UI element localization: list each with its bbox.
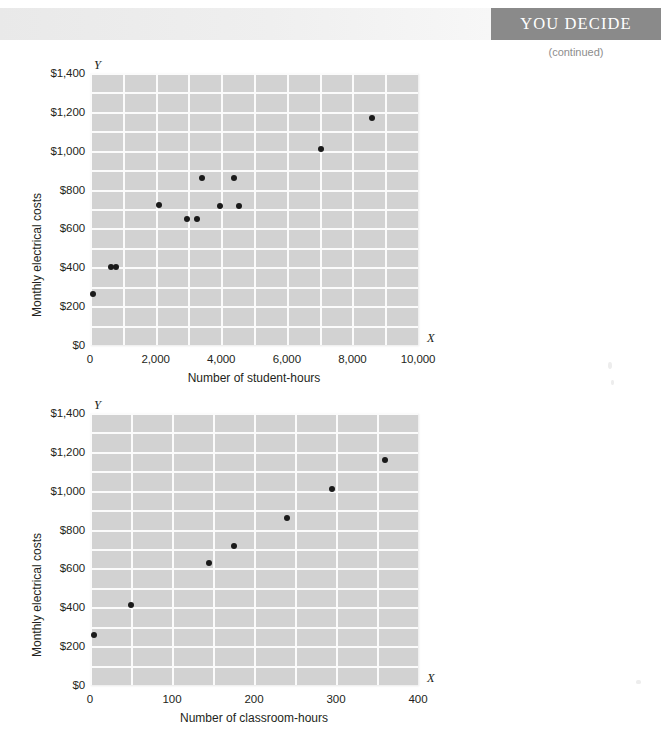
page-header-band: YOU DECIDE xyxy=(0,8,661,40)
gridline-horizontal xyxy=(90,491,418,493)
y-tick-label: $800 xyxy=(60,184,85,196)
data-point xyxy=(382,457,388,463)
data-point xyxy=(329,486,335,492)
scan-speckle xyxy=(611,380,614,385)
y-tick-label: $200 xyxy=(60,300,85,312)
scan-speckle xyxy=(608,362,612,369)
x-tick-label: 2,000 xyxy=(141,353,169,365)
scan-speckle xyxy=(636,680,641,684)
data-point xyxy=(284,515,290,521)
header-left-gradient-bar xyxy=(0,8,491,40)
data-point xyxy=(206,560,212,566)
data-point xyxy=(217,203,223,209)
y-axis-letter: Y xyxy=(94,58,101,73)
x-axis-title: Number of classroom-hours xyxy=(90,711,418,725)
y-axis-title: Monthly electrical costs xyxy=(30,193,44,317)
y-tick-label: $1,000 xyxy=(50,145,85,157)
continued-label: (continued) xyxy=(491,46,661,58)
gridline-horizontal xyxy=(90,112,418,114)
y-tick-label: $600 xyxy=(60,222,85,234)
gridline-horizontal xyxy=(90,248,418,250)
y-axis-letter: Y xyxy=(94,398,101,413)
plot-area xyxy=(90,413,418,685)
gridline-horizontal xyxy=(90,413,418,415)
x-tick-label: 400 xyxy=(409,693,428,705)
page-title: YOU DECIDE xyxy=(491,8,661,40)
gridline-horizontal xyxy=(90,549,418,551)
data-point xyxy=(369,115,375,121)
x-tick-label: 0 xyxy=(87,353,93,365)
data-point xyxy=(318,146,324,152)
gridline-horizontal xyxy=(90,151,418,153)
chart-student-hours: $0 $200 $400 $600 $800 $1,000 xyxy=(0,60,470,390)
data-point xyxy=(199,175,205,181)
plot-area xyxy=(90,73,418,345)
y-tick-label: $1,200 xyxy=(50,106,85,118)
chart-classroom-hours: $0 $200 $400 $600 $800 $1,000 xyxy=(0,400,470,730)
x-axis-letter: X xyxy=(427,671,435,686)
gridline-horizontal xyxy=(90,607,418,609)
x-axis-letter: X xyxy=(427,331,435,346)
gridline-horizontal xyxy=(90,131,418,133)
x-tick-label: 300 xyxy=(327,693,346,705)
gridline-horizontal xyxy=(90,209,418,211)
gridline-horizontal xyxy=(90,666,418,668)
y-tick-label: $0 xyxy=(72,339,85,351)
data-point xyxy=(91,632,97,638)
header-title-block: YOU DECIDE xyxy=(491,8,661,40)
gridline-horizontal xyxy=(90,452,418,454)
gridline-horizontal xyxy=(90,73,418,75)
data-point xyxy=(113,264,119,270)
y-tick-label: $1,200 xyxy=(50,446,85,458)
y-tick-label: $1,400 xyxy=(50,67,85,79)
gridline-horizontal xyxy=(90,588,418,590)
data-point xyxy=(156,202,162,208)
y-tick-label: $400 xyxy=(60,261,85,273)
data-point xyxy=(231,543,237,549)
data-point xyxy=(231,175,237,181)
gridline-horizontal xyxy=(90,530,418,532)
data-point xyxy=(184,216,190,222)
y-tick-label: $1,400 xyxy=(50,407,85,419)
gridline-horizontal xyxy=(90,306,418,308)
gridline-horizontal xyxy=(90,287,418,289)
x-tick-label: 100 xyxy=(163,693,182,705)
gridline-horizontal xyxy=(90,471,418,473)
x-tick-label: 0 xyxy=(87,693,93,705)
x-tick-label: 8,000 xyxy=(338,353,366,365)
y-tick-label: $600 xyxy=(60,562,85,574)
y-tick-label: $400 xyxy=(60,601,85,613)
data-point xyxy=(90,291,96,297)
x-tick-label: 4,000 xyxy=(207,353,235,365)
x-axis-title: Number of student-hours xyxy=(90,371,418,385)
gridline-horizontal xyxy=(90,170,418,172)
y-tick-label: $200 xyxy=(60,640,85,652)
gridline-horizontal xyxy=(90,510,418,512)
gridline-horizontal xyxy=(90,267,418,269)
gridline-horizontal xyxy=(90,432,418,434)
x-tick-label: 6,000 xyxy=(273,353,301,365)
y-tick-label: $1,000 xyxy=(50,485,85,497)
gridline-horizontal xyxy=(90,326,418,328)
gridline-horizontal xyxy=(90,646,418,648)
gridline-horizontal xyxy=(90,627,418,629)
gridline-horizontal xyxy=(90,92,418,94)
y-tick-label: $0 xyxy=(72,679,85,691)
x-tick-label: 10,000 xyxy=(401,353,436,365)
gridline-horizontal xyxy=(90,190,418,192)
y-axis-title: Monthly electrical costs xyxy=(30,533,44,657)
x-tick-label: 200 xyxy=(245,693,264,705)
gridline-horizontal xyxy=(90,228,418,230)
data-point xyxy=(194,216,200,222)
y-tick-label: $800 xyxy=(60,524,85,536)
gridline-horizontal xyxy=(90,568,418,570)
